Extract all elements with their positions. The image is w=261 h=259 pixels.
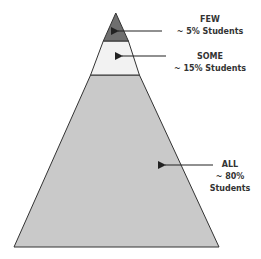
label-all-name: ALL [222, 160, 238, 169]
pyramid-diagram: FEW ~ 5% Students SOME ~ 15% Students AL… [0, 0, 261, 259]
label-some-name: SOME [197, 52, 223, 61]
tier-few [103, 13, 128, 41]
label-all-percent: ~ 80% [216, 172, 245, 181]
label-some-percent: ~ 15% Students [174, 64, 246, 73]
tier-all [14, 75, 219, 247]
label-all-students: Students [210, 184, 251, 193]
tier-some [91, 41, 140, 75]
label-few-percent: ~ 5% Students [177, 27, 244, 36]
label-few-name: FEW [200, 15, 220, 24]
